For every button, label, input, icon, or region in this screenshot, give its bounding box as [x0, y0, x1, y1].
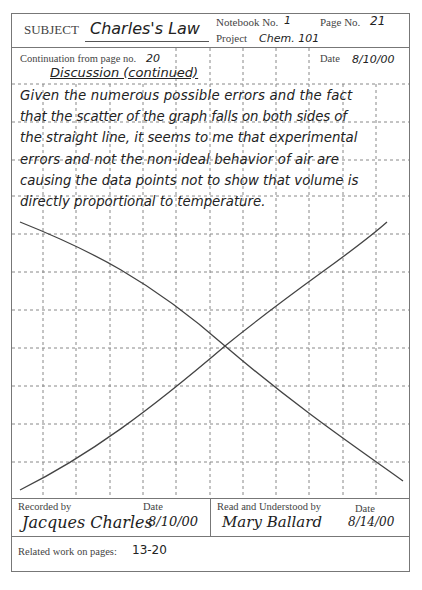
read-by-signature: Mary Ballard: [222, 513, 322, 531]
page-value: 21: [370, 14, 385, 28]
subject-label: SUBJECT: [24, 22, 79, 38]
body-line: errors and not the non-ideal behavior of…: [20, 152, 339, 167]
header-divider: [11, 47, 410, 48]
subject-value: Charles's Law: [90, 19, 200, 38]
body-line: Given the numerous possible errors and t…: [20, 88, 353, 103]
date-label: Date: [320, 53, 340, 64]
related-work-value: 13-20: [132, 543, 167, 557]
subject-underline: [85, 41, 209, 42]
recorded-by-label: Recorded by: [18, 501, 71, 512]
read-date-value: 8/14/00: [348, 515, 394, 529]
body-line: causing the data points not to show that…: [20, 173, 358, 188]
project-label: Project: [216, 32, 247, 44]
page-label: Page No.: [320, 16, 360, 28]
body-line: the straight line, it seems to me that e…: [20, 130, 357, 145]
body-line: that the scatter of the graph falls on b…: [20, 109, 347, 124]
related-divider: [11, 536, 410, 537]
read-date-label: Date: [355, 503, 375, 514]
related-work-label: Related work on pages:: [18, 546, 117, 557]
date-value: 8/10/00: [352, 53, 394, 66]
body-line: directly proportional to temperature.: [20, 194, 265, 209]
read-by-label: Read and Understood by: [217, 501, 321, 512]
notebook-label: Notebook No.: [216, 16, 278, 28]
recorded-date-label: Date: [143, 501, 163, 512]
continuation-value: 20: [146, 52, 160, 65]
recorded-date-value: 8/10/00: [148, 514, 198, 529]
continuation-label: Continuation from page no.: [20, 53, 136, 64]
footer-column-divider: [210, 498, 211, 536]
notebook-value: 1: [284, 14, 291, 27]
project-value: Chem. 101: [259, 32, 319, 45]
recorded-by-signature: Jacques Charles: [22, 513, 153, 532]
discussion-heading: Discussion (continued): [50, 65, 198, 80]
